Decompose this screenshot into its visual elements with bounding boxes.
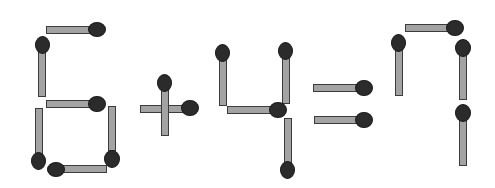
match-stick [46, 26, 91, 34]
match-stick [459, 54, 467, 100]
match-head-icon [455, 39, 471, 57]
match-head-icon [446, 20, 464, 36]
match-head-icon [31, 152, 46, 170]
match-head-icon [35, 36, 50, 54]
match-stick [405, 24, 449, 32]
match-head-icon [88, 22, 106, 37]
match-stick [395, 49, 403, 96]
match-stick [46, 100, 91, 108]
matchstick-puzzle [0, 0, 495, 188]
match-stick [459, 120, 467, 166]
match-head-icon [455, 104, 471, 122]
match-stick [35, 108, 43, 155]
match-head-icon [215, 44, 230, 62]
match-stick [108, 106, 116, 151]
match-head-icon [157, 74, 172, 92]
match-stick [219, 59, 227, 106]
match-head-icon [278, 42, 293, 60]
match-head-icon [47, 162, 65, 177]
match-head-icon [280, 161, 295, 179]
match-stick [62, 165, 107, 173]
match-stick [161, 89, 169, 136]
match-head-icon [355, 112, 373, 128]
match-head-icon [181, 100, 199, 116]
match-head-icon [355, 80, 373, 96]
match-head-icon [88, 96, 106, 112]
match-head-icon [391, 34, 406, 52]
match-stick [38, 50, 46, 97]
match-stick [284, 118, 292, 164]
match-stick [314, 116, 358, 124]
match-head-icon [269, 102, 287, 118]
match-stick [313, 84, 357, 92]
match-stick [282, 57, 290, 104]
match-stick [227, 106, 271, 114]
